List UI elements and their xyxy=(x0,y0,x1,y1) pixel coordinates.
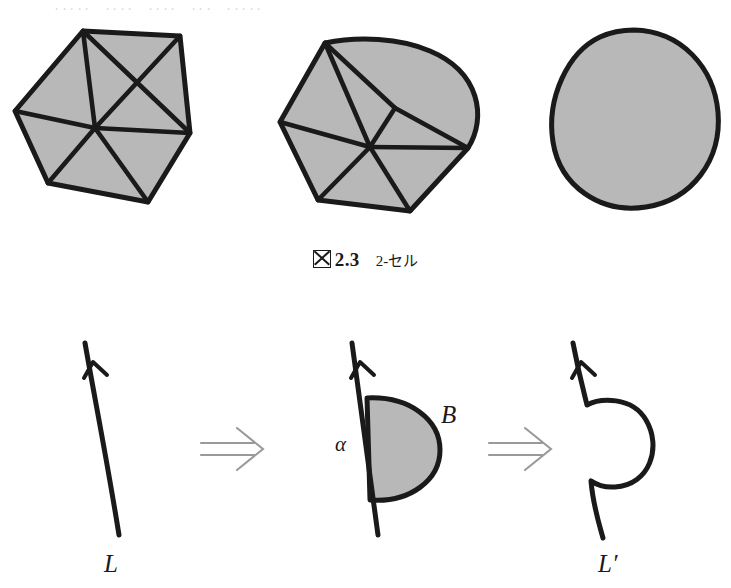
label-B: B xyxy=(441,401,456,429)
figure-illustration-canvas xyxy=(0,0,731,588)
half-disk-B xyxy=(367,398,440,500)
panel-triangulated-hexagon xyxy=(15,31,190,202)
label-L-prime: L′ xyxy=(598,550,617,578)
figure-number: 2.3 xyxy=(335,249,360,270)
label-alpha: α xyxy=(335,432,346,457)
panel-line-with-disk xyxy=(351,343,440,535)
implies-arrow-2 xyxy=(489,428,551,470)
panel-oriented-line-L xyxy=(84,343,119,535)
figure-caption-title: 2-セル xyxy=(376,253,419,269)
panel-triangulated-curved-polygon xyxy=(280,39,478,211)
line-Lprime-stroke xyxy=(573,343,653,538)
kanji-zu-boxed-glyph xyxy=(313,250,331,268)
panel-smooth-disk xyxy=(552,30,719,208)
label-L: L xyxy=(104,550,118,578)
figure-caption: 2.32-セル xyxy=(0,248,731,273)
implies-arrow-1 xyxy=(201,428,263,470)
smooth-disk-body xyxy=(552,30,719,208)
figure-caption-label: 2.3 xyxy=(313,251,360,270)
curved-polygon-body xyxy=(280,39,478,211)
panel-deformed-line-L-prime xyxy=(572,343,653,538)
